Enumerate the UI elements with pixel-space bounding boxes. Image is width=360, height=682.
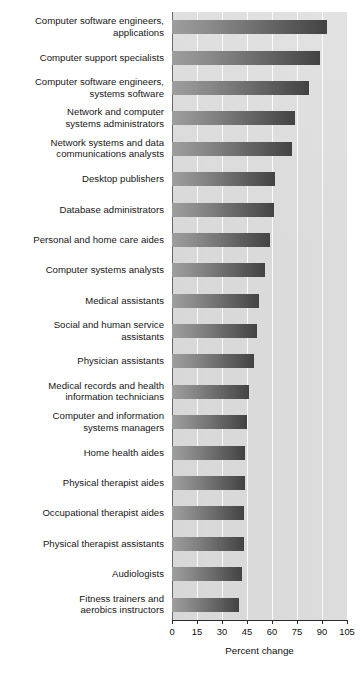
bar	[172, 598, 239, 612]
bar-row: Database administrators	[0, 194, 360, 224]
bar	[172, 324, 257, 338]
category-label: Computer systems analysts	[4, 265, 164, 277]
bar-track	[172, 73, 347, 103]
x-axis-tick	[347, 620, 348, 624]
bar-track	[172, 346, 347, 376]
bar-row: Audiologists	[0, 559, 360, 589]
category-label: Home health aides	[4, 447, 164, 459]
category-label: Database administrators	[4, 204, 164, 216]
bar-track	[172, 437, 347, 467]
category-label: Medical records and health information t…	[4, 380, 164, 403]
bar	[172, 354, 254, 368]
category-label: Personal and home care aides	[4, 234, 164, 246]
bar-row: Home health aides	[0, 437, 360, 467]
bar-track	[172, 468, 347, 498]
bar-row: Network systems and data communications …	[0, 134, 360, 164]
bar-track	[172, 194, 347, 224]
bar-track	[172, 134, 347, 164]
bar-track	[172, 12, 347, 42]
x-axis-tick	[322, 620, 323, 624]
bar	[172, 294, 259, 308]
x-axis-tick	[297, 620, 298, 624]
category-label: Computer support specialists	[4, 52, 164, 64]
x-axis-tick	[272, 620, 273, 624]
x-axis-title: Percent change	[172, 645, 347, 656]
x-axis-tick-label: 30	[217, 626, 227, 637]
bar-row: Physical therapist aides	[0, 468, 360, 498]
category-label: Network and computer systems administrat…	[4, 107, 164, 130]
bar	[172, 567, 242, 581]
bar-track	[172, 407, 347, 437]
bar-row: Fitness trainers and aerobics instructor…	[0, 589, 360, 619]
category-label: Fitness trainers and aerobics instructor…	[4, 593, 164, 616]
bar	[172, 111, 295, 125]
x-axis-tick-label: 15	[192, 626, 202, 637]
category-label: Physical therapist assistants	[4, 538, 164, 550]
bar-track	[172, 103, 347, 133]
category-label: Physician assistants	[4, 356, 164, 368]
category-label: Social and human service assistants	[4, 320, 164, 343]
bar-row: Computer and information systems manager…	[0, 407, 360, 437]
bar	[172, 263, 265, 277]
bar-track	[172, 316, 347, 346]
bar-row: Medical records and health information t…	[0, 377, 360, 407]
bar	[172, 537, 244, 551]
x-axis-tick	[172, 620, 173, 624]
bar-row: Computer software engineers, application…	[0, 12, 360, 42]
category-label: Computer and information systems manager…	[4, 411, 164, 434]
x-axis-tick-label: 105	[339, 626, 355, 637]
bar-track	[172, 286, 347, 316]
bar-row: Computer systems analysts	[0, 255, 360, 285]
bar-row: Desktop publishers	[0, 164, 360, 194]
bar	[172, 172, 275, 186]
bar	[172, 476, 245, 490]
bar-track	[172, 377, 347, 407]
bar-track	[172, 559, 347, 589]
bar-row: Social and human service assistants	[0, 316, 360, 346]
category-label: Computer software engineers, application…	[4, 16, 164, 39]
bar-row: Computer support specialists	[0, 42, 360, 72]
category-label: Occupational therapist aides	[4, 508, 164, 520]
bar-row: Medical assistants	[0, 286, 360, 316]
bar-rows: Computer software engineers, application…	[0, 12, 360, 620]
bar-row: Network and computer systems administrat…	[0, 103, 360, 133]
bar	[172, 446, 245, 460]
category-label: Medical assistants	[4, 295, 164, 307]
bar	[172, 385, 249, 399]
bar	[172, 415, 247, 429]
bar	[172, 142, 292, 156]
bar-track	[172, 255, 347, 285]
bar-track	[172, 164, 347, 194]
bar	[172, 51, 320, 65]
category-label: Desktop publishers	[4, 173, 164, 185]
x-axis-tick-label: 0	[169, 626, 174, 637]
bar-row: Physical therapist assistants	[0, 529, 360, 559]
x-axis-tick-label: 60	[267, 626, 277, 637]
x-axis-tick	[197, 620, 198, 624]
bar-track	[172, 498, 347, 528]
bar-track	[172, 42, 347, 72]
category-label: Computer software engineers, systems sof…	[4, 76, 164, 99]
x-axis-tick	[247, 620, 248, 624]
category-label: Audiologists	[4, 568, 164, 580]
x-axis-tick-label: 45	[242, 626, 252, 637]
x-axis-tick-label: 90	[317, 626, 327, 637]
bar-track	[172, 225, 347, 255]
bar	[172, 506, 244, 520]
bar	[172, 81, 309, 95]
x-axis-tick-label: 75	[292, 626, 302, 637]
bar-track	[172, 529, 347, 559]
bar	[172, 203, 274, 217]
category-label: Physical therapist aides	[4, 477, 164, 489]
bar	[172, 20, 327, 34]
x-axis-line	[172, 620, 347, 621]
percent-change-bar-chart: Computer software engineers, application…	[0, 0, 360, 682]
category-label: Network systems and data communications …	[4, 137, 164, 160]
bar-row: Computer software engineers, systems sof…	[0, 73, 360, 103]
x-axis-tick	[222, 620, 223, 624]
bar-row: Occupational therapist aides	[0, 498, 360, 528]
bar-row: Personal and home care aides	[0, 225, 360, 255]
bar	[172, 233, 270, 247]
bar-row: Physician assistants	[0, 346, 360, 376]
bar-track	[172, 589, 347, 619]
